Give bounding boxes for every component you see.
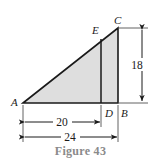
figure-container: A B C D E 18 20 24 Figure 43 <box>0 0 161 165</box>
vertex-label-E: E <box>91 24 99 36</box>
vertex-label-C: C <box>114 14 122 26</box>
dimension-label-24: 24 <box>64 131 76 143</box>
vertex-label-D: D <box>104 107 113 119</box>
dimension-label-18: 18 <box>131 59 143 71</box>
shaded-triangle <box>23 28 118 103</box>
vertex-label-A: A <box>10 96 18 108</box>
geometry-diagram: A B C D E 18 20 24 <box>0 0 161 165</box>
dimension-label-20: 20 <box>56 116 68 128</box>
vertex-label-B: B <box>121 107 128 119</box>
figure-caption: Figure 43 <box>0 144 161 159</box>
